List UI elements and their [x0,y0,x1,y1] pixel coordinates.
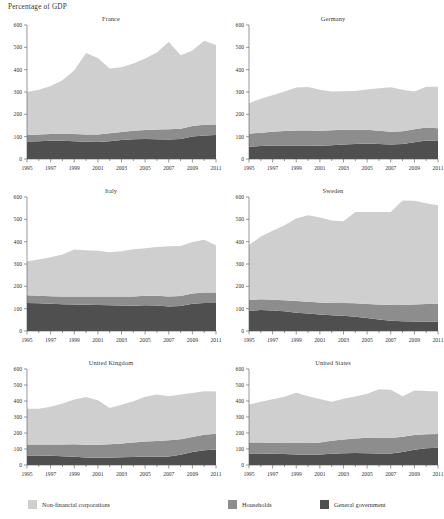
x-tick-label: 2009 [409,337,420,343]
chart-panel-sweden: Sweden0100200300400500600199519971999200… [222,185,444,357]
y-tick-label: 100 [14,134,23,140]
legend-item-general-government: General government [320,500,386,509]
chart-panel-united-kingdom: United Kingdom01002003004005006001995199… [0,357,222,491]
area-chart-svg: 0100200300400500600199519971999200120032… [0,357,222,491]
x-tick-label: 1995 [21,165,32,171]
y-tick-label: 200 [236,430,245,436]
x-tick-label: 2011 [433,165,444,171]
x-tick-label: 2007 [163,165,174,171]
x-tick-label: 2003 [116,165,127,171]
y-tick-label: 500 [236,44,245,50]
x-tick-label: 2001 [314,165,325,171]
chart-panel-united-states: United States010020030040050060019951997… [222,357,444,491]
x-tick-label: 1999 [69,471,80,477]
x-tick-label: 1997 [45,165,56,171]
x-tick-label: 2009 [187,165,198,171]
x-tick-label: 1999 [291,165,302,171]
area-chart-svg: 0100200300400500600199519971999200120032… [0,13,222,185]
x-tick-label: 1995 [243,165,254,171]
y-tick-label: 300 [236,261,245,267]
y-tick-label: 0 [19,462,22,468]
x-tick-label: 2001 [92,471,103,477]
area-chart-svg: 0100200300400500600199519971999200120032… [222,185,444,357]
x-tick-label: 2001 [92,165,103,171]
panel-title: Sweden [222,187,444,194]
y-tick-label: 100 [14,446,23,452]
y-tick-label: 200 [14,430,23,436]
x-tick-label: 2011 [211,471,222,477]
chart-legend: Non-financial corporationsHouseholdsGene… [0,494,444,514]
area-chart-svg: 0100200300400500600199519971999200120032… [222,13,444,185]
y-tick-label: 500 [14,382,23,388]
x-tick-label: 2007 [385,471,396,477]
x-tick-label: 2007 [385,165,396,171]
y-tick-label: 400 [236,239,245,245]
y-tick-label: 300 [14,261,23,267]
y-tick-label: 600 [236,22,245,28]
x-tick-label: 2007 [163,471,174,477]
y-tick-label: 400 [14,398,23,404]
area-chart-svg: 0100200300400500600199519971999200120032… [0,185,222,357]
y-tick-label: 300 [14,89,23,95]
y-tick-label: 100 [236,134,245,140]
y-tick-label: 400 [236,398,245,404]
x-tick-label: 2001 [314,471,325,477]
legend-item-households: Households [228,500,272,509]
y-tick-label: 600 [14,366,23,372]
area-series-non-financial-corporations [249,389,438,443]
legend-swatch-icon [320,500,329,509]
legend-swatch-icon [28,500,37,509]
y-tick-label: 0 [241,462,244,468]
legend-label: Non-financial corporations [42,501,110,508]
x-tick-label: 2003 [116,471,127,477]
y-tick-label: 300 [236,414,245,420]
panel-title: United Kingdom [0,359,222,366]
x-tick-label: 2005 [362,471,373,477]
x-tick-label: 1997 [267,337,278,343]
x-tick-label: 2009 [409,471,420,477]
area-chart-svg: 0100200300400500600199519971999200120032… [222,357,444,491]
y-tick-label: 200 [14,111,23,117]
x-tick-label: 2011 [433,337,444,343]
panel-title: Italy [0,187,222,194]
x-tick-label: 2003 [338,337,349,343]
x-tick-label: 1997 [267,471,278,477]
y-tick-label: 400 [14,67,23,73]
y-tick-label: 200 [236,283,245,289]
x-tick-label: 2001 [92,337,103,343]
panel-title: France [0,15,222,22]
panel-grid: France0100200300400500600199519971999200… [0,13,444,491]
x-tick-label: 2005 [140,337,151,343]
y-tick-label: 400 [236,67,245,73]
y-tick-label: 600 [14,22,23,28]
x-tick-label: 2011 [211,337,222,343]
x-tick-label: 2003 [338,165,349,171]
x-tick-label: 1997 [45,471,56,477]
y-tick-label: 500 [236,216,245,222]
y-tick-label: 600 [236,366,245,372]
y-tick-label: 0 [241,156,244,162]
area-series-non-financial-corporations [27,391,216,444]
x-tick-label: 2009 [409,165,420,171]
area-series-non-financial-corporations [27,41,216,135]
x-tick-label: 1999 [69,337,80,343]
legend-label: Households [242,501,272,508]
x-tick-label: 2003 [116,337,127,343]
y-tick-label: 200 [14,283,23,289]
y-tick-label: 300 [14,414,23,420]
y-tick-label: 400 [14,239,23,245]
legend-item-non-financial-corporations: Non-financial corporations [28,500,110,509]
x-tick-label: 2011 [433,471,444,477]
y-tick-label: 500 [14,216,23,222]
figure-root: Percentage of GDP France0100200300400500… [0,0,444,519]
x-tick-label: 1997 [45,337,56,343]
x-tick-label: 1999 [69,165,80,171]
x-tick-label: 1999 [291,337,302,343]
legend-swatch-icon [228,500,237,509]
x-tick-label: 2001 [314,337,325,343]
x-tick-label: 1997 [267,165,278,171]
y-tick-label: 0 [241,328,244,334]
x-tick-label: 2011 [211,165,222,171]
y-tick-label: 500 [236,382,245,388]
x-tick-label: 2005 [362,337,373,343]
